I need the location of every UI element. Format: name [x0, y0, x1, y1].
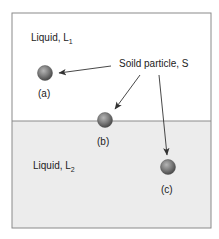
liquid-l2-region [12, 121, 211, 228]
solid-particle-label: Soild particle, S [119, 58, 189, 69]
particle-b-caption: (b) [97, 136, 109, 147]
particle-b [98, 113, 113, 128]
particle-c [161, 160, 176, 175]
particle-a-caption: (a) [38, 88, 50, 99]
particle-c-caption: (c) [161, 184, 173, 195]
phase-diagram: Liquid, L1 Liquid, L2 Soild particle, S … [0, 0, 219, 239]
particle-a [38, 66, 53, 81]
